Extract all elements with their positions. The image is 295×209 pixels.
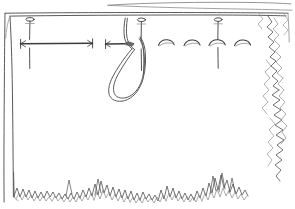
frame-right-line [288, 13, 289, 42]
frame-inner-top-line [5, 13, 288, 17]
arc-hook-3 [209, 40, 225, 46]
sketch-svg [0, 0, 295, 209]
sketch-canvas [0, 0, 295, 209]
dimension-arrow-long [21, 39, 93, 49]
arc-hook-2 [184, 40, 200, 46]
bottom-grass-texture [14, 172, 248, 203]
frame-outer-top-line [108, 2, 292, 10]
arc-hook-4 [235, 40, 251, 46]
frame-left-inner-line [6, 16, 14, 197]
right-grass-texture [258, 14, 288, 181]
frame-left-outer-line [4, 13, 5, 202]
arc-hook-1 [159, 40, 175, 46]
hanging-rope-loop [109, 18, 146, 101]
